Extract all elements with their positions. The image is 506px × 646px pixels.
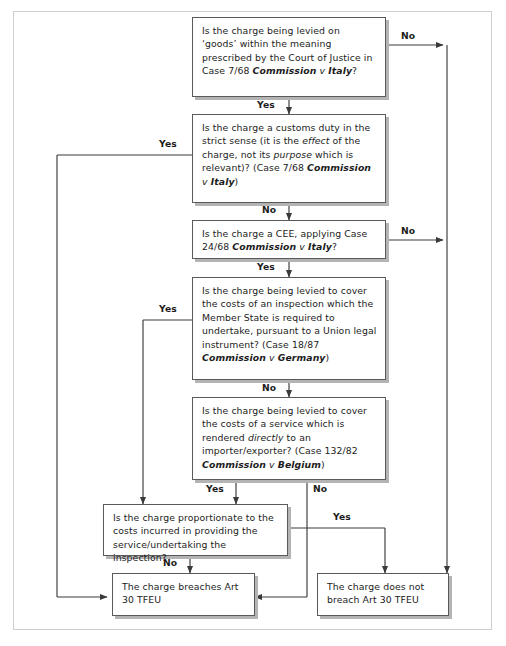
- edge-label-q3-no: No: [401, 225, 415, 236]
- edge-label-q2-no: No: [262, 204, 276, 215]
- question-inspection-union-obligation[interactable]: Is the charge being levied to cover the …: [192, 277, 386, 380]
- question-service-rendered-directly[interactable]: Is the charge being levied to cover the …: [192, 397, 386, 480]
- question-customs-duty[interactable]: Is the charge a customs duty in the stri…: [192, 114, 386, 203]
- edge-label-q6-yes: Yes: [333, 511, 351, 522]
- question-goods[interactable]: Is the charge being levied on ‘goods’ wi…: [192, 17, 386, 97]
- edge-label-q2-yes: Yes: [159, 138, 177, 149]
- edge-label-q5-no: No: [313, 483, 327, 494]
- edge-label-q1-no: No: [401, 30, 415, 41]
- edge-label-q6-no: No: [163, 557, 177, 568]
- outcome-does-not-breach[interactable]: The charge does not breach Art 30 TFEU: [317, 573, 449, 616]
- flowchart-canvas: Is the charge being levied on ‘goods’ wi…: [0, 0, 506, 646]
- edge-label-q4-no: No: [262, 382, 276, 393]
- edge-label-q4-yes: Yes: [159, 303, 177, 314]
- outcome-breaches[interactable]: The charge breaches Art 30 TFEU: [112, 573, 255, 616]
- edge-label-q3-yes: Yes: [257, 261, 275, 272]
- question-proportionate[interactable]: Is the charge proportionate to the costs…: [103, 504, 288, 556]
- edge-label-q1-yes: Yes: [257, 99, 275, 110]
- question-cee[interactable]: Is the charge a CEE, applying Case 24/68…: [192, 220, 386, 259]
- edge-label-q5-yes: Yes: [206, 483, 224, 494]
